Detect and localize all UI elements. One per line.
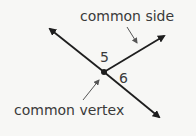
common-vertex-pointer-arrow bbox=[83, 80, 99, 100]
vertex-point bbox=[101, 69, 107, 75]
angle-6-label: 6 bbox=[119, 70, 128, 86]
common-side-ray bbox=[104, 36, 164, 72]
line-ray-upper-left bbox=[50, 29, 104, 72]
common-side-label: common side bbox=[80, 8, 174, 24]
diagram-canvas: common side 5 6 common vertex bbox=[0, 0, 196, 136]
adjacent-angles-diagram: common side 5 6 common vertex bbox=[0, 0, 196, 136]
common-vertex-label: common vertex bbox=[14, 102, 124, 118]
common-side-pointer-arrow bbox=[127, 27, 137, 43]
angle-5-label: 5 bbox=[100, 49, 109, 65]
